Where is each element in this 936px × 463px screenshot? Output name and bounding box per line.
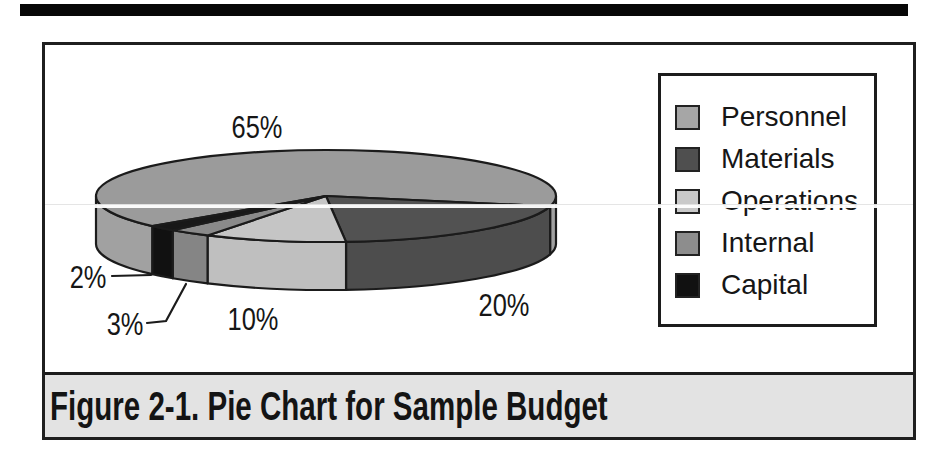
legend-swatch-capital xyxy=(675,273,700,298)
legend-swatch-internal xyxy=(675,231,700,256)
legend-label-materials: Materials xyxy=(721,146,835,172)
legend: Personnel Materials Operations Internal … xyxy=(658,73,877,327)
figure-caption-bar: Figure 2-1. Pie Chart for Sample Budget xyxy=(45,372,913,437)
legend-swatch-materials xyxy=(675,147,700,172)
scanned-page: { "figure": { "caption": "Figure 2-1. Pi… xyxy=(0,0,936,463)
legend-item-capital: Capital xyxy=(675,272,808,298)
legend-item-operations: Operations xyxy=(675,188,858,214)
legend-item-personnel: Personnel xyxy=(675,104,847,130)
legend-label-operations: Operations xyxy=(721,188,858,214)
legend-label-capital: Capital xyxy=(721,272,808,298)
figure-caption: Figure 2-1. Pie Chart for Sample Budget xyxy=(50,383,608,430)
legend-swatch-personnel xyxy=(675,105,700,130)
slice-label-materials: 20% xyxy=(479,288,530,324)
legend-item-materials: Materials xyxy=(675,146,835,172)
slice-label-capital: 2% xyxy=(70,260,107,296)
slice-label-operations: 10% xyxy=(228,302,279,338)
legend-item-internal: Internal xyxy=(675,230,814,256)
page-top-rule xyxy=(20,4,908,16)
slice-label-internal: 3% xyxy=(107,307,144,343)
legend-swatch-operations xyxy=(675,189,700,214)
legend-label-internal: Internal xyxy=(721,230,814,256)
legend-label-personnel: Personnel xyxy=(721,104,847,130)
scan-artifact-line xyxy=(45,204,913,208)
slice-label-personnel: 65% xyxy=(232,110,283,146)
